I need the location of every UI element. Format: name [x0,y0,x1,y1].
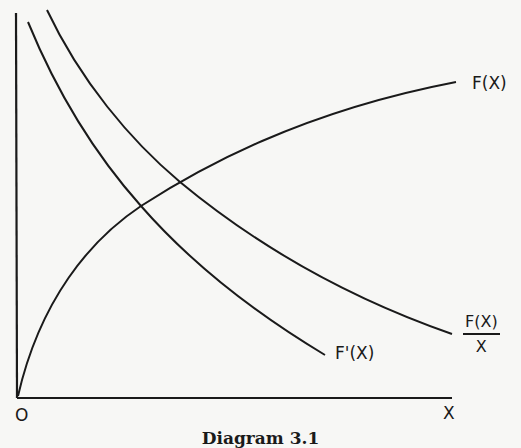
fraction-numerator: F(X) [463,314,500,335]
curve-f-prime [28,22,325,355]
diagram-caption: Diagram 3.1 [0,428,521,448]
curve-f-prime-label: F'(X) [335,345,374,362]
x-axis-label: X [443,405,455,422]
curve-f-over-x [47,10,452,334]
origin-label: O [15,407,28,424]
curve-f-over-x-label: F(X) X [463,314,500,355]
fraction-denominator: X [476,335,487,355]
curve-f-label: F(X) [472,75,507,92]
y-axis [16,13,17,398]
